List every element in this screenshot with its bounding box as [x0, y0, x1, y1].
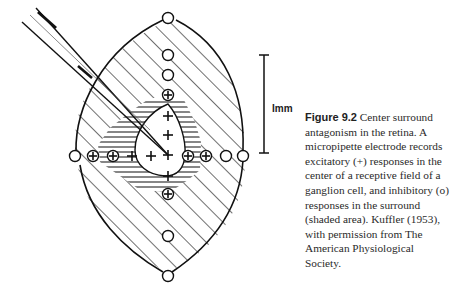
inhibitory-marker [163, 271, 174, 282]
mixed-response-marker [163, 189, 174, 200]
inhibitory-marker [70, 151, 81, 162]
figure-caption: Figure 9.2 Center surround antagonism in… [305, 110, 451, 271]
inhibitory-marker [221, 151, 232, 162]
inhibitory-marker [238, 151, 249, 162]
scale-bar-label: Imm [272, 103, 293, 114]
figure-label: Figure 9.2 [305, 111, 357, 123]
mixed-response-marker [88, 151, 99, 162]
inhibitory-marker [163, 13, 174, 24]
mixed-response-marker [201, 151, 212, 162]
caption-text: Center surround antagonism in the retina… [305, 111, 449, 269]
mixed-response-marker [183, 151, 194, 162]
inhibitory-marker [163, 231, 174, 242]
inhibitory-marker [163, 70, 174, 81]
mixed-response-marker [163, 90, 174, 101]
scale-bar: Imm [259, 55, 293, 153]
mixed-response-marker [108, 151, 119, 162]
inhibitory-marker [163, 50, 174, 61]
